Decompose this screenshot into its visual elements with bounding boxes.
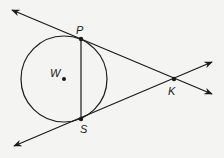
tangent-line-pk (12, 10, 212, 94)
label-k: K (168, 85, 176, 97)
point-p (79, 37, 83, 41)
geometry-diagram: P S K W (0, 0, 224, 158)
center-point-w (62, 77, 66, 81)
tangent-line-sk (14, 62, 212, 146)
label-p: P (76, 24, 84, 36)
label-s: S (80, 123, 88, 135)
point-k (172, 77, 176, 81)
point-s (79, 117, 83, 121)
label-w: W (50, 67, 62, 79)
